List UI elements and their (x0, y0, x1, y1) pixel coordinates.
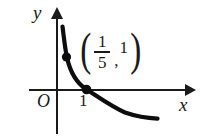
close-paren: ) (130, 27, 141, 73)
x-axis-label: x (179, 95, 187, 114)
fraction-numerator: 1 (98, 33, 107, 51)
y-axis-arrow-icon (51, 7, 63, 19)
coordinate-y-value: 1 (120, 39, 129, 56)
open-paren: ( (80, 27, 91, 73)
math-figure-canvas: y x O 1 ( 1 5 , 1 ) (0, 0, 203, 137)
coordinate-comma: , (111, 52, 119, 69)
origin-label: O (37, 92, 50, 110)
y-axis-label: y (33, 3, 41, 22)
fraction-denominator: 5 (98, 53, 107, 71)
point-coordinate-annotation: ( 1 5 , 1 ) (78, 27, 143, 77)
fraction-one-fifth: 1 5 (94, 33, 110, 71)
x-tick-label-1: 1 (79, 92, 88, 109)
marked-point-one-fifth (62, 52, 71, 61)
